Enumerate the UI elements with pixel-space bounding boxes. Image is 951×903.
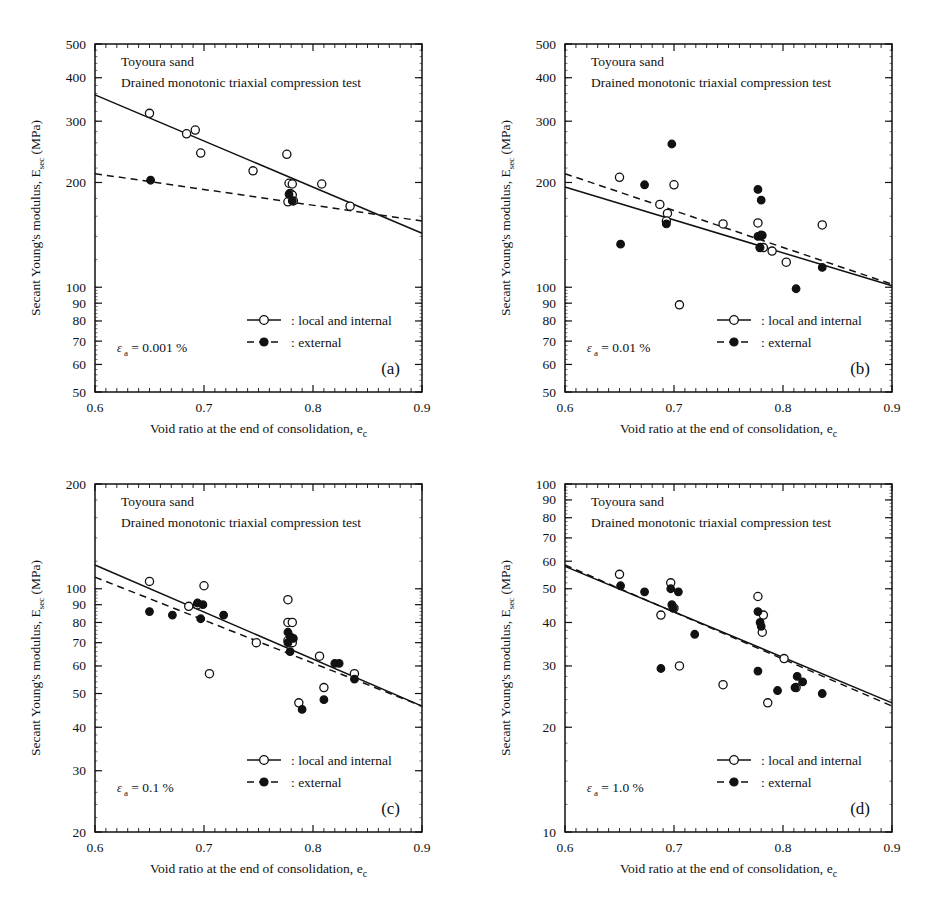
- data-point-filled-circle: [147, 176, 155, 184]
- x-tick-label: 0.8: [775, 840, 792, 855]
- y-tick-label: 90: [73, 296, 87, 311]
- data-point-filled-circle: [757, 196, 765, 204]
- y-tick-label: 90: [543, 296, 557, 311]
- data-point-open-circle: [675, 301, 683, 309]
- x-tick-label: 0.8: [775, 400, 792, 415]
- panel-subtitle: Drained monotonic triaxial compression t…: [121, 75, 361, 90]
- data-point-filled-circle: [663, 220, 671, 228]
- y-axis-title: Secant Young's modulus, Esec (MPa): [28, 560, 46, 756]
- y-axis-title: Secant Young's modulus, Esec (MPa): [498, 120, 516, 316]
- data-point-filled-circle: [197, 615, 205, 623]
- y-tick-label: 500: [536, 37, 557, 52]
- legend-label-filled: : external: [291, 335, 342, 350]
- y-tick-label: 50: [543, 581, 557, 596]
- fit-line-filled-circle: [95, 174, 422, 221]
- data-point-filled-circle: [799, 678, 807, 686]
- panel-letter: (d): [850, 799, 870, 818]
- x-tick-label: 0.7: [196, 400, 213, 415]
- y-tick-label: 60: [543, 357, 557, 372]
- data-point-filled-circle: [757, 623, 765, 631]
- data-point-open-circle: [284, 596, 292, 604]
- data-point-open-circle: [200, 582, 208, 590]
- legend-marker-open: [260, 316, 269, 325]
- legend-marker-filled: [260, 338, 268, 346]
- data-point-filled-circle: [298, 706, 306, 714]
- fit-line-open-circle: [95, 95, 422, 233]
- data-point-filled-circle: [754, 667, 762, 675]
- y-tick-label: 30: [73, 763, 87, 778]
- data-point-open-circle: [182, 130, 190, 138]
- y-tick-label: 200: [66, 175, 87, 190]
- data-point-filled-circle: [320, 696, 328, 704]
- x-tick-label: 0.8: [305, 400, 322, 415]
- legend-marker-open: [730, 316, 739, 325]
- data-point-filled-circle: [351, 675, 359, 683]
- data-point-filled-circle: [818, 690, 826, 698]
- data-point-open-circle: [782, 258, 790, 266]
- data-point-open-circle: [754, 219, 762, 227]
- data-point-filled-circle: [617, 240, 625, 248]
- data-point-filled-circle: [286, 648, 294, 656]
- data-point-filled-circle: [641, 588, 649, 596]
- data-point-filled-circle: [754, 608, 762, 616]
- legend-marker-filled: [730, 778, 738, 786]
- panel-letter: (c): [381, 799, 400, 818]
- fit-line-open-circle: [95, 565, 422, 706]
- data-point-filled-circle: [146, 608, 154, 616]
- y-tick-label: 400: [536, 70, 557, 85]
- data-point-open-circle: [288, 618, 296, 626]
- data-point-open-circle: [145, 109, 153, 117]
- data-point-open-circle: [657, 611, 665, 619]
- legend-marker-open: [730, 756, 739, 765]
- data-point-open-circle: [719, 220, 727, 228]
- plot-a: 50607080901002003004005000.60.70.80.9Toy…: [0, 0, 475, 451]
- strain-annotation: ε a = 0.01 %: [587, 340, 651, 358]
- x-tick-label: 0.7: [666, 400, 683, 415]
- data-point-filled-circle: [169, 611, 177, 619]
- y-tick-label: 60: [73, 658, 87, 673]
- y-tick-label: 20: [543, 720, 557, 735]
- data-point-filled-circle: [774, 687, 782, 695]
- panel-title: Toyoura sand: [591, 54, 664, 69]
- legend-label-open: : local and internal: [291, 313, 392, 328]
- y-tick-label: 50: [73, 686, 87, 701]
- data-point-open-circle: [185, 602, 193, 610]
- plot-b: 50607080901002003004005000.60.70.80.9Toy…: [470, 0, 945, 451]
- data-point-open-circle: [252, 639, 260, 647]
- panel-d: 1020304050607080901000.60.70.80.9Toyoura…: [470, 440, 945, 891]
- x-tick-label: 0.9: [414, 840, 431, 855]
- fit-line-open-circle: [565, 187, 892, 286]
- y-tick-label: 70: [73, 334, 87, 349]
- data-point-open-circle: [288, 180, 296, 188]
- data-point-open-circle: [318, 180, 326, 188]
- strain-annotation: ε a = 0.1 %: [117, 780, 174, 798]
- y-tick-label: 90: [73, 597, 87, 612]
- panel-a: 50607080901002003004005000.60.70.80.9Toy…: [0, 0, 475, 451]
- data-point-open-circle: [283, 150, 291, 158]
- data-point-open-circle: [320, 683, 328, 691]
- data-point-filled-circle: [288, 197, 296, 205]
- plot-d: 1020304050607080901000.60.70.80.9Toyoura…: [470, 440, 945, 891]
- data-point-filled-circle: [335, 660, 343, 668]
- y-tick-label: 70: [543, 334, 557, 349]
- data-point-filled-circle: [758, 232, 766, 240]
- x-axis-title: Void ratio at the end of consolidation, …: [620, 421, 838, 439]
- data-point-open-circle: [754, 592, 762, 600]
- data-point-open-circle: [780, 654, 788, 662]
- panel-b: 50607080901002003004005000.60.70.80.9Toy…: [470, 0, 945, 451]
- legend-label-filled: : external: [761, 775, 812, 790]
- y-tick-label: 100: [536, 280, 557, 295]
- x-tick-label: 0.6: [87, 840, 104, 855]
- data-point-filled-circle: [284, 639, 292, 647]
- y-tick-label: 60: [543, 554, 557, 569]
- x-axis-title: Void ratio at the end of consolidation, …: [150, 421, 368, 439]
- legend-marker-filled: [260, 778, 268, 786]
- y-tick-label: 50: [543, 385, 557, 400]
- data-point-filled-circle: [669, 604, 677, 612]
- data-point-open-circle: [675, 662, 683, 670]
- strain-annotation: ε a = 1.0 %: [587, 780, 644, 798]
- y-tick-label: 80: [73, 313, 87, 328]
- data-point-open-circle: [663, 209, 671, 217]
- y-tick-label: 70: [73, 635, 87, 650]
- y-tick-label: 30: [543, 658, 557, 673]
